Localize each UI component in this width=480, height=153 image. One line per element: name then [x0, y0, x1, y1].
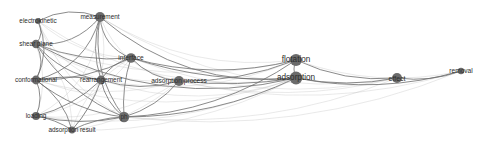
graph-edge	[38, 12, 100, 21]
graph-node-interface[interactable]	[126, 53, 136, 63]
graph-edge	[296, 60, 397, 79]
graph-edge	[72, 78, 296, 130]
graph-node-flotation[interactable]	[290, 54, 302, 66]
graph-node-removal[interactable]	[458, 68, 464, 74]
graph-node-loading[interactable]	[32, 112, 40, 120]
graph-node-rearrangement[interactable]	[97, 76, 106, 85]
graph-node-electrokinetic[interactable]	[35, 18, 41, 24]
graph-edge	[38, 21, 124, 117]
graph-node-effect[interactable]	[392, 73, 402, 83]
graph-node-ph[interactable]	[119, 112, 129, 122]
graph-node-adsorption-result[interactable]	[69, 127, 76, 134]
graph-node-measurement[interactable]	[95, 12, 105, 22]
graph-edge	[296, 60, 461, 78]
network-graph-svg	[0, 0, 480, 153]
graph-node-adsorption[interactable]	[290, 72, 303, 85]
graph-edge	[72, 81, 179, 130]
network-graph-canvas: measurementelectrokineticshear planeinte…	[0, 0, 480, 153]
edge-layer	[36, 12, 461, 130]
graph-node-conformational[interactable]	[32, 76, 41, 85]
graph-node-adsorption-process[interactable]	[174, 76, 184, 86]
graph-edge	[36, 80, 40, 116]
graph-node-shear-plane[interactable]	[32, 40, 40, 48]
